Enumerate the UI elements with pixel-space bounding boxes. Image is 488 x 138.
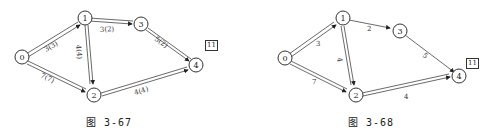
figure-caption: 图 3-67	[86, 114, 132, 129]
edge-label-0-2: 7	[312, 78, 316, 86]
svg-text:2: 2	[353, 91, 358, 100]
svg-text:1: 1	[82, 14, 87, 23]
svg-text:0: 0	[19, 53, 24, 62]
edge-label-2-4: 4(4)	[133, 85, 149, 97]
node-1: 1	[78, 11, 92, 25]
node-2: 2	[87, 88, 101, 102]
edge-label-3-4: 5(2)	[153, 35, 170, 50]
result-box: 11	[205, 40, 218, 51]
node-3: 3	[134, 17, 148, 31]
edge-label-1-2: 4(4)	[74, 44, 83, 59]
figure-3-67: 3(3) 3(2) 4(4) 7(7) 5(2) 4(4) 0 1 2 3 4 …	[0, 0, 244, 138]
figure-caption: 图 3-68	[348, 114, 394, 129]
svg-text:3: 3	[397, 27, 402, 36]
node-4: 4	[452, 69, 466, 83]
node-3: 3	[393, 24, 407, 38]
svg-text:2: 2	[91, 91, 96, 100]
node-0: 0	[278, 51, 292, 65]
svg-text:1: 1	[340, 14, 345, 23]
edge-label-1-3: 3(2)	[100, 25, 115, 34]
result-box: 11	[466, 58, 479, 69]
svg-text:4: 4	[456, 72, 461, 81]
edge-label-1-3: 2	[367, 25, 371, 33]
edge-label-0-1: 3	[316, 40, 320, 48]
node-4: 4	[189, 58, 203, 72]
edge-label-1-2: 4	[335, 57, 344, 63]
edge-label-2-4: 4	[404, 93, 409, 101]
node-1: 1	[336, 11, 350, 25]
figure-3-68: 3 2 4 7 5 4 0 1 2 3 4 11 图 3-68	[244, 0, 488, 138]
svg-text:3: 3	[138, 20, 143, 29]
node-0: 0	[15, 50, 29, 64]
edge-label-3-4: 5	[421, 51, 430, 60]
svg-text:4: 4	[193, 61, 198, 70]
svg-text:0: 0	[282, 54, 287, 63]
node-2: 2	[349, 88, 363, 102]
